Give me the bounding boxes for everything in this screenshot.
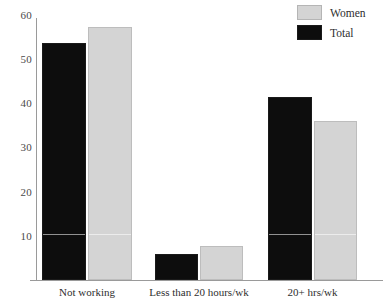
- bar-total-0: [42, 43, 86, 280]
- category-label-0: Not working: [59, 286, 115, 298]
- y-tick-label: 30: [2, 141, 32, 153]
- x-axis-line: [30, 280, 383, 281]
- bar-women-2: [314, 121, 357, 280]
- y-tick-label: 40: [2, 97, 32, 109]
- legend: WomenTotal: [297, 4, 383, 44]
- y-tick-label: 60: [2, 9, 32, 21]
- bar-gridline-artifact: [269, 234, 311, 235]
- plot-area: [36, 18, 383, 280]
- bar-gridline-artifact: [315, 234, 356, 235]
- legend-item-total[interactable]: Total: [297, 24, 383, 41]
- bar-gridline-artifact: [43, 234, 85, 235]
- y-tick-label: 50: [2, 53, 32, 65]
- category-label-1: Less than 20 hours/wk: [149, 286, 248, 298]
- legend-item-women[interactable]: Women: [297, 4, 383, 21]
- y-tick-label: 20: [2, 186, 32, 198]
- category-label-2: 20+ hrs/wk: [288, 286, 338, 298]
- bar-total-2: [268, 97, 312, 280]
- legend-swatch-icon: [297, 25, 322, 40]
- bar-total-1: [155, 254, 198, 280]
- bar-gridline-artifact: [89, 234, 131, 235]
- legend-label: Total: [330, 27, 353, 39]
- legend-swatch-icon: [297, 5, 322, 20]
- y-axis-tick-labels: 102030405060: [0, 0, 32, 308]
- y-tick-label: 10: [2, 230, 32, 242]
- bar-women-0: [88, 27, 132, 280]
- bar-women-1: [200, 246, 243, 280]
- legend-label: Women: [330, 7, 365, 19]
- bar-chart: 102030405060 Not workingLess than 20 hou…: [0, 0, 383, 308]
